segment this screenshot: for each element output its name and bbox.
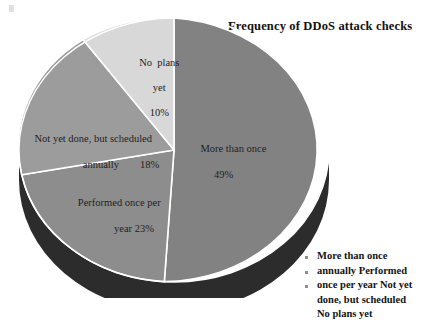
legend-line: once per year Not yet xyxy=(303,278,435,293)
legend-line: annually Performed xyxy=(303,264,435,279)
legend-line-text: once per year Not yet xyxy=(317,279,412,290)
legend-marker-icon xyxy=(305,285,308,288)
pie-label-no-plans-yet-line2: yet xyxy=(153,82,166,93)
legend-line-text: No plans yet xyxy=(317,308,372,319)
legend-marker-icon xyxy=(305,256,308,259)
chart-legend: More than once annually Performed once p… xyxy=(303,249,435,322)
pie-label-performed-once: Performed once per year 23% xyxy=(46,184,182,260)
pie-label-not-yet-done-line2: annually 18% xyxy=(24,159,184,172)
pie-label-no-plans-yet-value: 10% xyxy=(150,107,169,118)
pie-label-more-than-once-line1: More than once xyxy=(201,143,267,154)
legend-marker-icon xyxy=(305,271,308,274)
pie-label-no-plans-yet: No plans yet 10% xyxy=(106,44,202,132)
legend-line-text: More than once xyxy=(317,250,387,261)
pie-label-more-than-once: More than once 49% xyxy=(190,130,300,206)
legend-line: More than once xyxy=(303,249,435,264)
pie-label-more-than-once-value: 49% xyxy=(190,169,300,182)
pie-label-performed-once-line1: Performed once per xyxy=(78,197,161,208)
pie-label-not-yet-done-line1: Not yet done, but scheduled xyxy=(35,133,153,144)
legend-line-text: done, but scheduled xyxy=(317,294,406,305)
pie-chart-figure: Frequency of DDoS attack checks No plan xyxy=(0,0,435,336)
legend-line-text: annually Performed xyxy=(317,265,407,276)
legend-line: done, but scheduled xyxy=(303,293,435,308)
pie-label-no-plans-yet-line1: No plans xyxy=(139,57,179,68)
pie-label-performed-once-line2: year 23% xyxy=(46,223,182,236)
legend-line: No plans yet xyxy=(303,307,435,322)
